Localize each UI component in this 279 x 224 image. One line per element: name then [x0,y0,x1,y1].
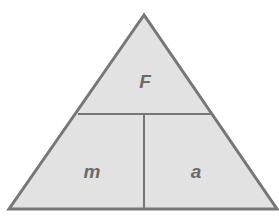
mass-label: m [84,161,101,183]
acceleration-label: a [191,161,202,183]
force-label: F [139,71,151,93]
formula-triangle [0,0,279,224]
